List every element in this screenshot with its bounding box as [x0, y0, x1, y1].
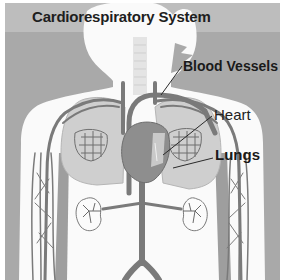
label-lungs: Lungs [215, 146, 260, 163]
diagram-panel: Cardiorespiratory System Blood Vessels H… [5, 3, 280, 280]
body-illustration [5, 3, 280, 280]
trachea [133, 37, 147, 95]
diagram-title: Cardiorespiratory System [32, 8, 211, 25]
label-heart: Heart [214, 106, 251, 123]
label-blood-vessels: Blood Vessels [183, 58, 278, 74]
diagram-frame: Cardiorespiratory System Blood Vessels H… [0, 0, 285, 280]
